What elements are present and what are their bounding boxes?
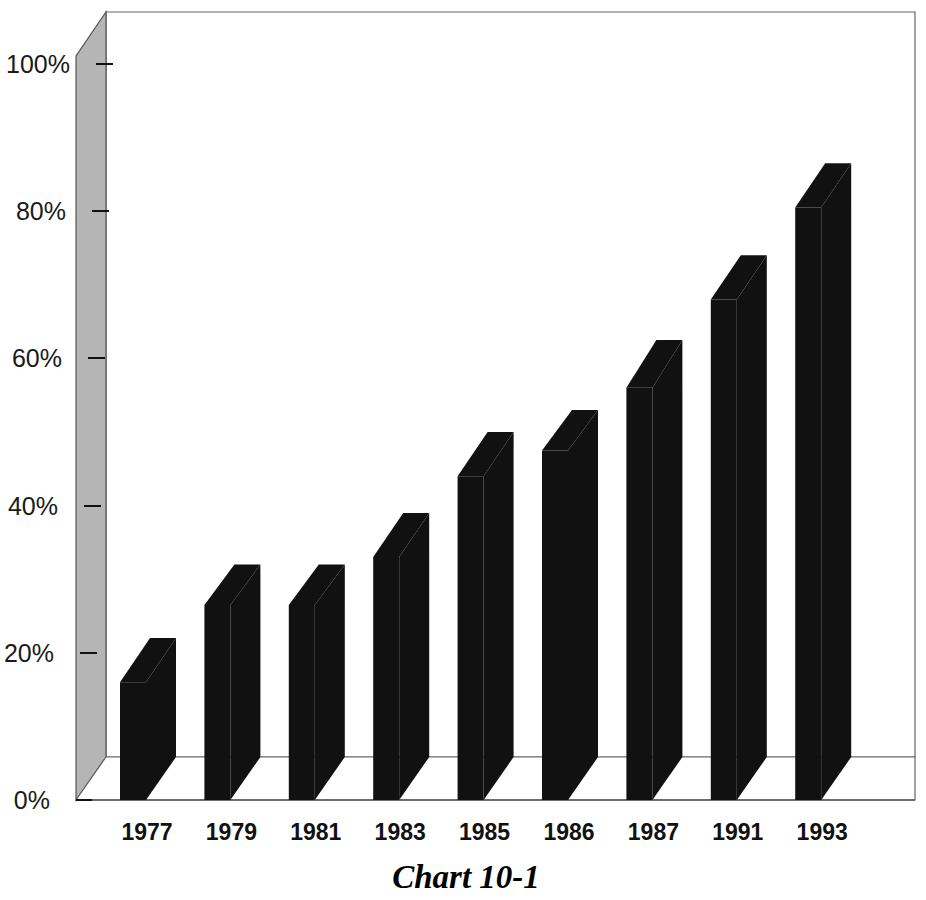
bar-1991	[711, 255, 767, 800]
chart-title: Chart 10-1	[392, 859, 540, 895]
x-tick-label-1986: 1986	[543, 819, 594, 845]
bar-1986	[542, 410, 598, 800]
bar-side-face	[821, 163, 851, 800]
x-tick-label-1985: 1985	[459, 819, 510, 845]
y-axis-tick-labels: 100% 80% 60% 40% 20% 0%	[4, 50, 70, 814]
bar-1983	[373, 513, 429, 800]
bar-front-face	[542, 450, 568, 800]
y-tick-label-100: 100%	[6, 50, 70, 78]
bar-front-face	[120, 682, 146, 800]
bar-front-face	[458, 476, 484, 800]
bar-1981	[289, 564, 345, 800]
y-tick-label-60: 60%	[12, 344, 62, 372]
x-tick-label-1977: 1977	[121, 819, 172, 845]
y-tick-label-0: 0%	[14, 786, 50, 814]
bar-front-face	[204, 605, 230, 800]
bar-side-face	[484, 432, 514, 800]
y-tick-label-40: 40%	[8, 492, 58, 520]
y-tick-label-80: 80%	[16, 197, 66, 225]
bar-1993	[795, 163, 851, 800]
x-axis-tick-labels: 197719791981198319851986198719911993	[121, 819, 847, 845]
bar-front-face	[626, 388, 652, 800]
x-tick-label-1991: 1991	[712, 819, 763, 845]
bar-1985	[458, 432, 514, 800]
bar-side-face	[399, 513, 429, 800]
y-axis-wall	[76, 12, 106, 800]
bar-front-face	[795, 208, 821, 800]
y-tick-label-20: 20%	[4, 639, 54, 667]
bar-side-face	[737, 255, 767, 800]
x-tick-label-1993: 1993	[797, 819, 848, 845]
bar-1979	[204, 564, 260, 800]
x-tick-label-1983: 1983	[375, 819, 426, 845]
chart-figure: 100% 80% 60% 40% 20% 0% 1977197919811983…	[0, 0, 926, 900]
bar-side-face	[568, 410, 598, 800]
x-tick-label-1979: 1979	[206, 819, 257, 845]
bar-front-face	[711, 300, 737, 800]
bar-1987	[626, 340, 682, 800]
bar-front-face	[373, 557, 399, 800]
bar-front-face	[289, 605, 315, 800]
bar-side-face	[652, 340, 682, 800]
x-tick-label-1987: 1987	[628, 819, 679, 845]
chart-canvas: 100% 80% 60% 40% 20% 0% 1977197919811983…	[0, 0, 926, 900]
x-tick-label-1981: 1981	[290, 819, 341, 845]
